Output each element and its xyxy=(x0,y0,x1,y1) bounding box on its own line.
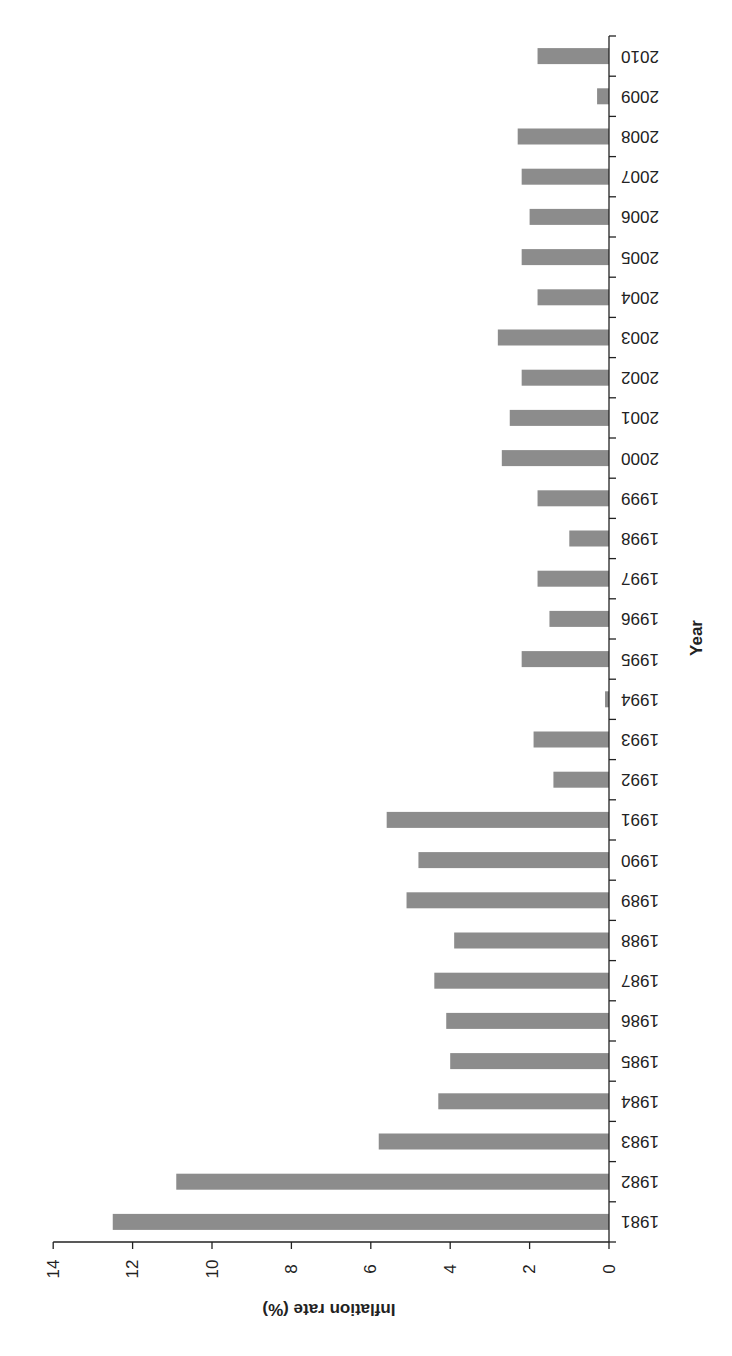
year-label: 1984 xyxy=(621,1092,659,1111)
value-axis-title: Inflation rate (%) xyxy=(262,1300,395,1319)
year-label: 2004 xyxy=(621,288,659,307)
bar-1987 xyxy=(434,973,609,989)
value-tick-label: 0 xyxy=(600,1264,619,1273)
bar-1998 xyxy=(569,531,609,547)
value-tick-label: 8 xyxy=(282,1264,301,1273)
bar-1985 xyxy=(450,1053,609,1069)
year-label: 1986 xyxy=(621,1011,659,1030)
year-label: 1996 xyxy=(621,609,659,628)
bar-1993 xyxy=(534,732,609,748)
bar-2007 xyxy=(522,169,609,185)
year-label: 2010 xyxy=(621,47,659,66)
year-label: 1997 xyxy=(621,569,659,588)
bar-1986 xyxy=(446,1013,609,1029)
year-label: 2008 xyxy=(621,127,659,146)
year-label: 1992 xyxy=(621,770,659,789)
year-label: 1981 xyxy=(621,1212,659,1231)
value-tick-label: 6 xyxy=(361,1264,380,1273)
year-label: 1987 xyxy=(621,971,659,990)
bar-1992 xyxy=(553,772,609,788)
year-label: 2001 xyxy=(621,408,659,427)
category-axis-ticks: 1981198219831984198519861987198819891990… xyxy=(609,36,659,1242)
bar-1990 xyxy=(418,852,609,868)
year-label: 2000 xyxy=(621,449,659,468)
bar-1995 xyxy=(522,651,609,667)
bar-1981 xyxy=(113,1214,609,1230)
year-label: 1994 xyxy=(621,690,659,709)
year-label: 1993 xyxy=(621,730,659,749)
year-label: 1983 xyxy=(621,1132,659,1151)
value-axis-ticks: 02468101214 xyxy=(44,1242,619,1278)
year-label: 1991 xyxy=(621,810,659,829)
bar-1988 xyxy=(454,933,609,949)
year-label: 2006 xyxy=(621,207,659,226)
year-label: 2005 xyxy=(621,248,659,267)
year-label: 2003 xyxy=(621,328,659,347)
bar-2010 xyxy=(538,48,609,64)
value-tick-label: 14 xyxy=(44,1260,63,1279)
year-label: 1998 xyxy=(621,529,659,548)
year-label: 2009 xyxy=(621,87,659,106)
bar-1999 xyxy=(538,490,609,506)
value-tick-label: 4 xyxy=(441,1264,460,1273)
bars-layer xyxy=(113,48,609,1230)
year-label: 1982 xyxy=(621,1172,659,1191)
bar-2004 xyxy=(538,289,609,305)
year-label: 1999 xyxy=(621,489,659,508)
year-label: 2002 xyxy=(621,368,659,387)
bar-1983 xyxy=(379,1134,609,1150)
inflation-bar-chart: 02468101214 1981198219831984198519861987… xyxy=(0,0,732,1356)
value-tick-label: 12 xyxy=(123,1260,142,1279)
bar-2003 xyxy=(498,330,609,346)
year-label: 1985 xyxy=(621,1052,659,1071)
year-label: 1995 xyxy=(621,650,659,669)
bar-1982 xyxy=(176,1174,609,1190)
chart-canvas: 02468101214 1981198219831984198519861987… xyxy=(0,0,732,1356)
value-tick-label: 2 xyxy=(520,1264,539,1273)
bar-2000 xyxy=(502,450,609,466)
bar-1984 xyxy=(438,1093,609,1109)
bar-2008 xyxy=(518,129,609,145)
year-label: 2007 xyxy=(621,167,659,186)
bar-1997 xyxy=(538,571,609,587)
bar-2002 xyxy=(522,370,609,386)
bar-1996 xyxy=(549,611,609,627)
value-tick-label: 10 xyxy=(203,1260,222,1279)
bar-2009 xyxy=(597,88,609,104)
bar-1991 xyxy=(387,812,609,828)
bar-2006 xyxy=(530,209,609,225)
bar-2001 xyxy=(510,410,609,426)
year-label: 1988 xyxy=(621,931,659,950)
year-label: 1990 xyxy=(621,851,659,870)
bar-2005 xyxy=(522,249,609,265)
bar-1989 xyxy=(407,892,609,908)
year-label: 1989 xyxy=(621,891,659,910)
category-axis-title: Year xyxy=(687,620,706,656)
